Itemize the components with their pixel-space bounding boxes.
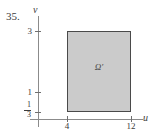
v-axis-label: v xyxy=(33,4,37,15)
y-tick-mark-3 xyxy=(35,31,41,32)
u-axis-line xyxy=(30,119,143,120)
region-rectangle-omega-prime: Ω′ xyxy=(67,31,131,112)
y-tick-mark-one-third xyxy=(35,112,41,113)
fraction-denominator: 3 xyxy=(26,111,32,119)
figure-container: 35. v u Ω′ 3 1 1 3 4 12 xyxy=(0,0,153,136)
fraction-numerator: 1 xyxy=(26,101,32,109)
region-label: Ω′ xyxy=(68,62,130,72)
y-tick-mark-1 xyxy=(35,92,41,93)
y-tick-label-one-third: 1 3 xyxy=(10,101,32,119)
y-tick-label-1: 1 xyxy=(10,87,32,97)
figure-number: 35. xyxy=(6,10,20,22)
x-tick-label-4: 4 xyxy=(56,121,78,131)
x-tick-label-12: 12 xyxy=(120,121,142,131)
y-tick-label-3: 3 xyxy=(10,26,32,36)
v-axis-line xyxy=(38,16,39,127)
u-axis-label: u xyxy=(143,112,148,123)
